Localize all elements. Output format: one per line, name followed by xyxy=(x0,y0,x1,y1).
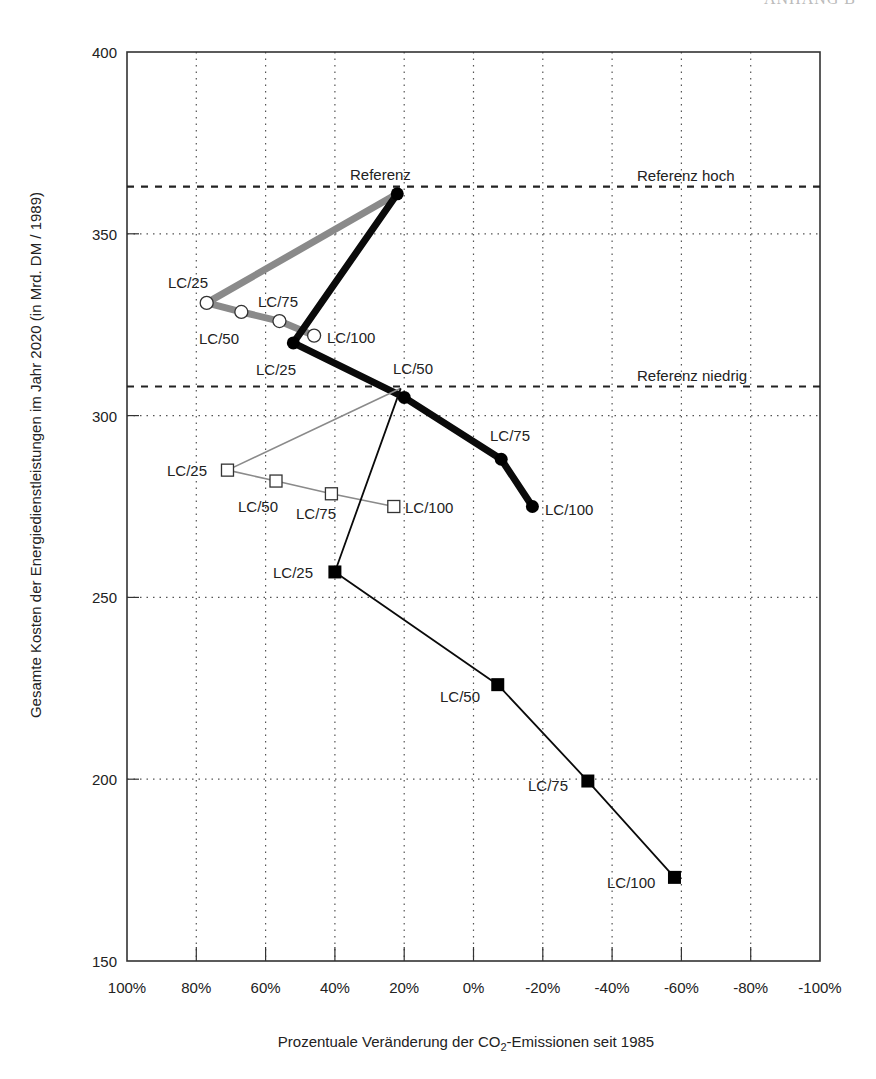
series-3 xyxy=(221,388,400,512)
open-circle-marker xyxy=(200,296,213,309)
label-s1-lc25: LC/25 xyxy=(168,274,208,291)
series-1 xyxy=(200,194,397,342)
label-s4-lc100: LC/100 xyxy=(607,874,655,891)
x-tick-label: -40% xyxy=(595,979,630,996)
x-tick-label: 20% xyxy=(389,979,419,996)
x-tick-label: 0% xyxy=(463,979,485,996)
label-s3-lc50: LC/50 xyxy=(238,498,278,515)
label-s1-lc75: LC/75 xyxy=(258,293,298,310)
open-circle-marker xyxy=(273,315,286,328)
open-square-marker xyxy=(270,475,282,487)
y-tick-label: 200 xyxy=(92,771,117,788)
x-axis-ticks: 100%80%60%40%20%0%-20%-40%-60%-80%-100% xyxy=(108,947,842,996)
x-tick-label: 80% xyxy=(181,979,211,996)
filled-square-marker xyxy=(668,871,681,884)
filled-circle-marker xyxy=(495,453,508,466)
filled-square-marker xyxy=(328,565,341,578)
filled-square-marker xyxy=(491,678,504,691)
label-s3-lc100: LC/100 xyxy=(405,499,453,516)
label-s1-lc100: LC/100 xyxy=(327,329,375,346)
filled-square-marker xyxy=(581,775,594,788)
y-tick-label: 150 xyxy=(92,953,117,970)
y-axis-title: Gesamte Kosten der Energiedienstleistung… xyxy=(27,192,44,718)
co2-cost-chart: 100%80%60%40%20%0%-20%-40%-60%-80%-100% … xyxy=(0,0,876,1079)
y-axis-ticks: 150200250300350400 xyxy=(92,44,139,970)
y-tick-label: 400 xyxy=(92,44,117,61)
x-tick-label: -60% xyxy=(664,979,699,996)
series-line xyxy=(227,388,400,506)
label-s2-lc75: LC/75 xyxy=(490,427,530,444)
open-square-marker xyxy=(325,488,337,500)
label-referenz: Referenz xyxy=(350,166,411,183)
open-circle-marker xyxy=(235,305,248,318)
x-tick-label: -80% xyxy=(733,979,768,996)
x-tick-label: 60% xyxy=(251,979,281,996)
label-s2-lc50: LC/50 xyxy=(393,360,433,377)
filled-circle-marker xyxy=(391,187,404,200)
label-s4-lc75: LC/75 xyxy=(528,777,568,794)
label-s1-lc50: LC/50 xyxy=(199,330,239,347)
x-axis-title: Prozentuale Veränderung der CO2-Emission… xyxy=(278,1033,654,1053)
label-s4-lc25: LC/25 xyxy=(273,564,313,581)
label-referenz-niedrig: Referenz niedrig xyxy=(637,367,747,384)
label-s3-lc75: LC/75 xyxy=(296,505,336,522)
label-s2-lc100: LC/100 xyxy=(545,501,593,518)
open-square-marker xyxy=(221,464,233,476)
x-tick-label: 100% xyxy=(108,979,146,996)
label-s2-lc25: LC/25 xyxy=(256,361,296,378)
y-tick-label: 250 xyxy=(92,589,117,606)
open-square-marker xyxy=(388,501,400,513)
y-tick-label: 350 xyxy=(92,226,117,243)
label-s4-lc50: LC/50 xyxy=(440,688,480,705)
x-tick-label: -20% xyxy=(525,979,560,996)
y-tick-label: 300 xyxy=(92,408,117,425)
x-tick-label: 40% xyxy=(320,979,350,996)
x-tick-label: -100% xyxy=(798,979,841,996)
open-circle-marker xyxy=(308,329,321,342)
filled-circle-marker xyxy=(287,336,300,349)
label-referenz-hoch: Referenz hoch xyxy=(637,167,735,184)
label-s3-lc25: LC/25 xyxy=(167,462,207,479)
grid xyxy=(127,52,820,961)
filled-circle-marker xyxy=(526,500,539,513)
plot-frame xyxy=(127,52,820,961)
